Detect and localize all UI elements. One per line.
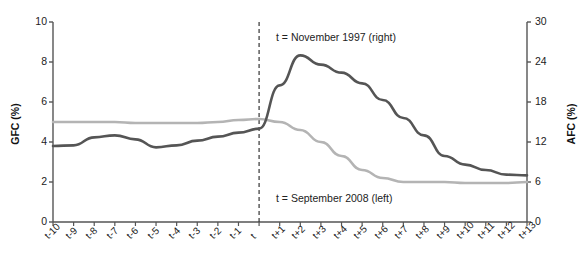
right-axis-tick-label: 0 (535, 215, 563, 227)
series-line-afc (53, 55, 527, 175)
left-axis-tick-label: 4 (19, 135, 47, 147)
left-axis-tick-label: 6 (19, 95, 47, 107)
right-axis-tick-label: 12 (535, 135, 563, 147)
annotation-right-series: t = November 1997 (right) (276, 31, 396, 43)
left-axis-tick-label: 2 (19, 175, 47, 187)
right-axis-tick-label: 18 (535, 95, 563, 107)
dual-axis-line-chart: GFC (%) AFC (%) 02468100612182430t-10t-9… (0, 0, 579, 262)
right-axis-tick-label: 30 (535, 15, 563, 27)
left-axis-tick-label: 0 (19, 215, 47, 227)
right-axis-tick-label: 6 (535, 175, 563, 187)
annotation-left-series: t = September 2008 (left) (276, 192, 392, 204)
series-line-gfc (53, 119, 527, 183)
series-layer (53, 55, 527, 183)
right-axis-tick-label: 24 (535, 55, 563, 67)
left-axis-tick-label: 8 (19, 55, 47, 67)
left-axis-tick-label: 10 (19, 15, 47, 27)
